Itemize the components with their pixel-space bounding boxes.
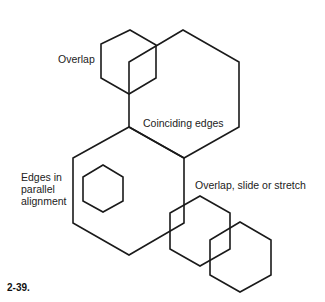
parallel-label-line1: Edges in	[21, 171, 62, 183]
overlap-label: Overlap	[58, 53, 95, 65]
large-lower-hexagon	[73, 127, 184, 255]
inner-parallel-hexagon	[83, 165, 123, 212]
overlap-slide-label: Overlap, slide or stretch	[195, 179, 306, 191]
figure-number: 2-39.	[7, 282, 30, 293]
coinciding-edges-label: Coinciding edges	[143, 117, 224, 129]
parallel-label-line3: alignment	[21, 195, 67, 207]
large-upper-hexagon	[129, 30, 239, 158]
hexagon-diagram	[0, 0, 325, 302]
overlap-hexagon-a	[170, 196, 230, 266]
overlap-hexagon-b	[210, 222, 271, 292]
parallel-label-line2: parallel	[21, 183, 55, 195]
